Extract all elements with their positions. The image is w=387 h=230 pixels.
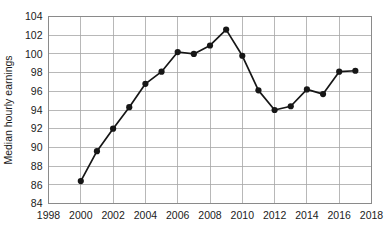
x-tick-label: 2010 <box>231 209 255 221</box>
data-point <box>110 126 116 132</box>
data-point <box>352 68 358 74</box>
y-tick-label: 98 <box>31 66 43 78</box>
x-tick-label: 2016 <box>328 209 352 221</box>
data-point <box>207 42 213 48</box>
y-axis-title: Median hourly earnings <box>2 55 14 164</box>
y-tick-label: 94 <box>31 104 43 116</box>
data-point <box>255 87 261 93</box>
x-tick-label: 2004 <box>134 209 158 221</box>
data-point <box>78 178 84 184</box>
y-tick-label: 90 <box>31 141 43 153</box>
y-tick-label: 104 <box>25 10 43 22</box>
data-point <box>336 69 342 75</box>
x-tick-label: 2008 <box>198 209 222 221</box>
y-tick-label: 100 <box>25 48 43 60</box>
data-point <box>320 91 326 97</box>
x-tick-label: 2012 <box>263 209 287 221</box>
data-point <box>239 53 245 59</box>
x-axis-tick-labels: 1998200020022004200620082010201220142016… <box>37 209 384 221</box>
data-point <box>142 81 148 87</box>
data-point <box>175 49 181 55</box>
x-tick-label: 2000 <box>69 209 93 221</box>
chart-container: 8486889092949698100102104 19982000200220… <box>0 0 387 230</box>
data-point <box>158 69 164 75</box>
data-point <box>126 104 132 110</box>
y-tick-label: 92 <box>31 122 43 134</box>
y-tick-label: 88 <box>31 160 43 172</box>
x-tick-label: 2002 <box>101 209 125 221</box>
data-point <box>191 51 197 57</box>
y-tick-label: 84 <box>31 197 43 209</box>
x-tick-label: 2018 <box>360 209 384 221</box>
x-tick-label: 1998 <box>37 209 61 221</box>
y-tick-label: 86 <box>31 179 43 191</box>
data-point <box>288 103 294 109</box>
data-point <box>223 26 229 32</box>
data-point <box>272 107 278 113</box>
data-point <box>94 148 100 154</box>
y-tick-label: 96 <box>31 85 43 97</box>
data-point <box>304 86 310 92</box>
y-tick-label: 102 <box>25 29 43 41</box>
chart-background <box>0 0 387 230</box>
line-chart: 8486889092949698100102104 19982000200220… <box>0 0 387 230</box>
x-tick-label: 2006 <box>166 209 190 221</box>
x-tick-label: 2014 <box>295 209 319 221</box>
